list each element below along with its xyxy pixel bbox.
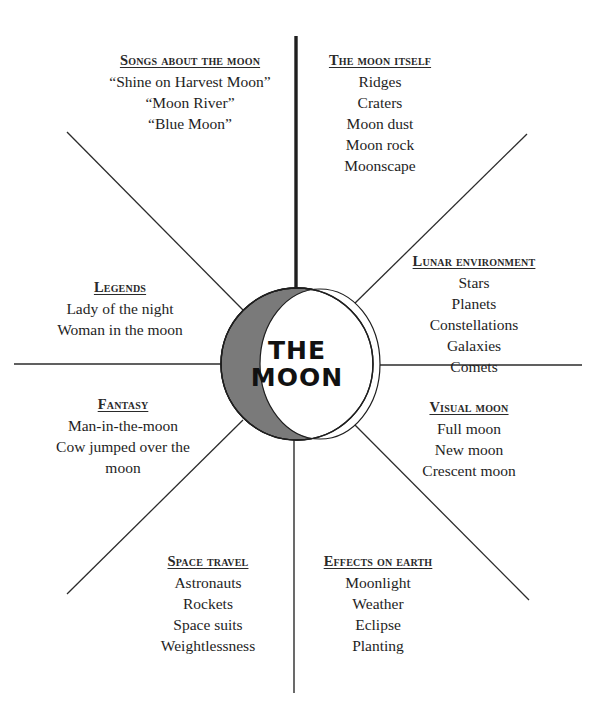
branch-item: Woman in the moon (57, 319, 183, 340)
branch-item: Planets (413, 293, 536, 314)
branch-item: Galaxies (413, 335, 536, 356)
branch-songs: Songs about the moon “Shine on Harvest M… (109, 50, 270, 134)
branch-item: “Shine on Harvest Moon” (109, 71, 270, 92)
branch-item: Stars (413, 272, 536, 293)
branch-lunar-environment: Lunar environment Stars Planets Constell… (413, 251, 536, 377)
branch-heading: Legends (57, 277, 183, 298)
branch-item: Moonscape (329, 155, 431, 176)
branch-item: Cow jumped over the (56, 436, 190, 457)
branch-item: Constellations (413, 314, 536, 335)
branch-fantasy: Fantasy Man-in-the-moon Cow jumped over … (56, 394, 190, 478)
branch-space-travel: Space travel Astronauts Rockets Space su… (161, 551, 255, 656)
branch-item: New moon (422, 439, 515, 460)
branch-heading: Visual moon (422, 397, 515, 418)
branch-heading: Songs about the moon (109, 50, 270, 71)
branch-item: Moonlight (324, 572, 433, 593)
branch-item: Comets (413, 356, 536, 377)
branch-item: Weightlessness (161, 635, 255, 656)
branch-item: Weather (324, 593, 433, 614)
center-title-line1: THE (251, 337, 343, 364)
branch-item: moon (56, 457, 190, 478)
branch-effects-on-earth: Effects on earth Moonlight Weather Eclip… (324, 551, 433, 656)
branch-item: Moon rock (329, 134, 431, 155)
branch-heading: Effects on earth (324, 551, 433, 572)
branch-item: Moon dust (329, 113, 431, 134)
branch-item: Eclipse (324, 614, 433, 635)
branch-item: Full moon (422, 418, 515, 439)
branch-item: Man-in-the-moon (56, 415, 190, 436)
branch-heading: Lunar environment (413, 251, 536, 272)
branch-heading: The moon itself (329, 50, 431, 71)
branch-item: Crescent moon (422, 460, 515, 481)
branch-item: Lady of the night (57, 298, 183, 319)
branch-heading: Fantasy (56, 394, 190, 415)
branch-heading: Space travel (161, 551, 255, 572)
branch-legends: Legends Lady of the night Woman in the m… (57, 277, 183, 340)
branch-visual-moon: Visual moon Full moon New moon Crescent … (422, 397, 515, 481)
branch-item: Space suits (161, 614, 255, 635)
moon-web-diagram: THE MOON Songs about the moon “Shine on … (0, 0, 608, 722)
branch-item: Rockets (161, 593, 255, 614)
branch-item: “Blue Moon” (109, 113, 270, 134)
branch-item: “Moon River” (109, 92, 270, 113)
center-title: THE MOON (251, 337, 343, 391)
branch-item: Ridges (329, 71, 431, 92)
branch-item: Craters (329, 92, 431, 113)
branch-moon-itself: The moon itself Ridges Craters Moon dust… (329, 50, 431, 176)
branch-item: Astronauts (161, 572, 255, 593)
center-title-line2: MOON (251, 364, 343, 391)
branch-item: Planting (324, 635, 433, 656)
